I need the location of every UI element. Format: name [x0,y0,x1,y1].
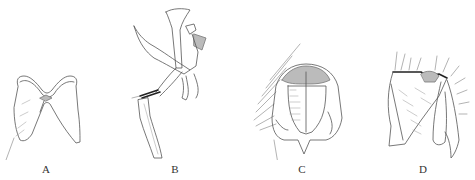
panel-b: B [110,0,230,180]
panel-label-b: B [171,163,178,175]
panel-d: D [355,0,475,180]
panel-label-c: C [298,163,305,175]
panel-a: A [0,0,110,180]
illustration-c [230,0,360,160]
panel-label-d: D [419,163,427,175]
panel-c: C [230,0,360,180]
illustration-b [110,0,230,160]
illustration-a [0,0,110,160]
illustration-d [355,0,475,160]
panel-label-a: A [42,163,50,175]
